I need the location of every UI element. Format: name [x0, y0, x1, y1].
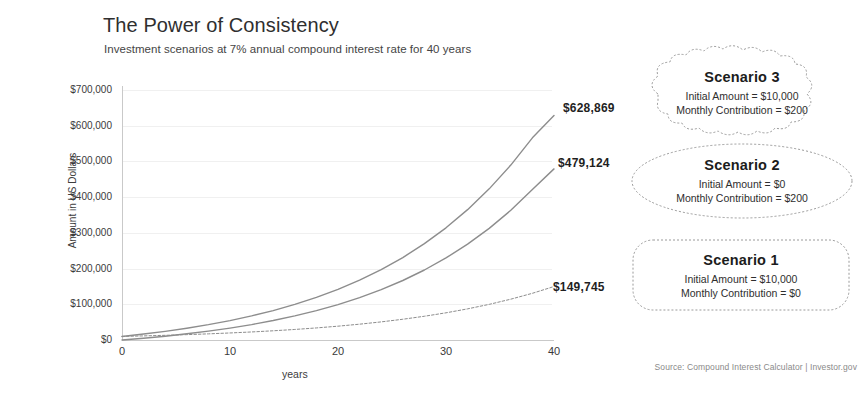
endpoint-label-scenario-1: $149,745 [553, 280, 605, 294]
callout-scenario-2[interactable]: Scenario 2 Initial Amount = $0 Monthly C… [628, 141, 856, 221]
callout-scenario-3[interactable]: Scenario 3 Initial Amount = $10,000 Mont… [628, 54, 856, 132]
callout-title: Scenario 3 [676, 69, 808, 85]
series-curves [0, 0, 600, 405]
source-attribution: Source: Compound Interest Calculator | I… [655, 362, 857, 372]
callout-scenario-1[interactable]: Scenario 1 Initial Amount = $10,000 Mont… [630, 237, 852, 315]
callout-monthly-contribution: Monthly Contribution = $0 [681, 286, 801, 300]
endpoint-label-scenario-3: $628,869 [563, 101, 615, 115]
chart-page: The Power of Consistency Investment scen… [0, 0, 867, 405]
callout-title: Scenario 2 [676, 157, 808, 173]
plot-area: Amount in US Dollars years $0$100,000$20… [0, 0, 600, 405]
callout-initial-amount: Initial Amount = $0 [676, 177, 808, 191]
callout-monthly-contribution: Monthly Contribution = $200 [676, 191, 808, 205]
callout-initial-amount: Initial Amount = $10,000 [676, 89, 808, 103]
callout-monthly-contribution: Monthly Contribution = $200 [676, 103, 808, 117]
callout-initial-amount: Initial Amount = $10,000 [681, 272, 801, 286]
endpoint-label-scenario-2: $479,124 [558, 156, 610, 170]
series-line-scenario-2 [122, 169, 554, 340]
series-line-scenario-3 [122, 115, 554, 336]
callout-title: Scenario 1 [681, 252, 801, 268]
